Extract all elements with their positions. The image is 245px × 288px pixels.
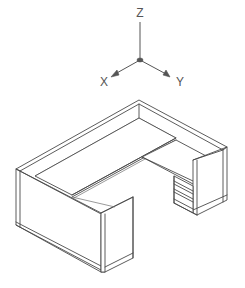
y-axis-line xyxy=(140,60,166,74)
x-arrow-icon xyxy=(111,70,119,77)
drawing-svg xyxy=(0,0,245,288)
z-axis-label: Z xyxy=(136,7,143,19)
x-axis-line xyxy=(115,60,140,74)
cad-viewport: Z X Y xyxy=(0,0,245,288)
y-arrow-icon xyxy=(163,70,170,77)
y-axis-label: Y xyxy=(176,76,184,88)
axis-origin-icon xyxy=(137,58,143,62)
x-axis-label: X xyxy=(100,76,108,88)
ucs-axis-tripod-icon xyxy=(111,22,170,77)
